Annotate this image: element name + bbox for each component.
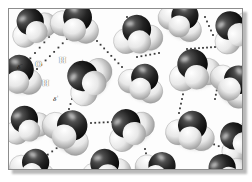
water-molecule	[36, 97, 103, 162]
water-molecule	[162, 105, 220, 155]
water-molecule	[46, 9, 105, 48]
water-molecule	[129, 141, 189, 169]
water-molecule-layer	[9, 9, 242, 169]
water-molecule	[9, 141, 62, 169]
water-molecule	[202, 9, 242, 61]
water-molecule	[110, 12, 165, 57]
water-molecule	[55, 46, 119, 112]
water-molecule	[114, 55, 172, 109]
water-molecule	[97, 97, 160, 158]
molecular-scene: O H H δ− δ+ δ+	[9, 9, 242, 169]
water-hydrogen-bonding-figure: O H H δ− δ+ δ+	[0, 0, 252, 182]
figure-panel: O H H δ− δ+ δ+	[8, 8, 243, 170]
water-molecule	[9, 50, 47, 98]
